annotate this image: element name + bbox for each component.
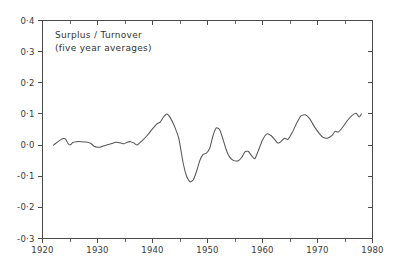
y-tick-label: -0·3 [17, 234, 34, 244]
chart-title: Surplus / Turnover [55, 30, 142, 40]
y-tick-label: -0·2 [17, 202, 34, 212]
x-tick-label: 1960 [251, 245, 273, 255]
x-tick-label: 1920 [31, 245, 53, 255]
x-tick-label: 1980 [361, 245, 383, 255]
x-tick-label: 1970 [306, 245, 328, 255]
chart-container: 0·40·30·20·10·0-0·1-0·2-0·3 192019301940… [0, 0, 403, 264]
y-tick-label: 0·3 [20, 47, 34, 57]
y-tick-label: 0·1 [20, 109, 34, 119]
x-tick-label: 1930 [86, 245, 108, 255]
x-tick-label: 1940 [141, 245, 163, 255]
y-tick-label: 0·2 [20, 78, 34, 88]
x-tick-label: 1950 [196, 245, 218, 255]
chart-subtitle: (five year averages) [55, 43, 152, 53]
y-tick-label: 0·0 [20, 140, 34, 150]
surplus-turnover-line-chart: 0·40·30·20·10·0-0·1-0·2-0·3 192019301940… [0, 0, 403, 264]
y-tick-label: 0·4 [20, 16, 34, 26]
y-tick-label: -0·1 [17, 171, 34, 181]
